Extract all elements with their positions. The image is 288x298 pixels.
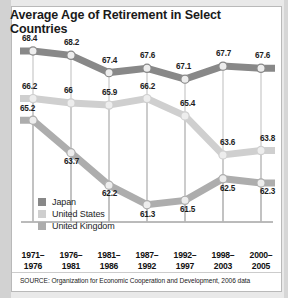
source-note: SOURCE: Organization for Economic Cooper… <box>20 277 250 284</box>
data-value-label: 62.5 <box>220 184 235 193</box>
data-point-marker <box>67 51 75 59</box>
legend-swatch-icon <box>38 198 46 206</box>
chart-figure: Average Age of Retirement in Select Coun… <box>0 0 288 298</box>
data-point-marker <box>105 101 113 109</box>
data-point-marker <box>29 116 37 124</box>
left-decorative-band <box>0 0 11 298</box>
x-axis-tick-4: 1992–1997 <box>165 250 205 271</box>
legend-item-label: United States <box>52 209 105 219</box>
x-tick-line2: 1981 <box>51 261 91 272</box>
data-point-marker <box>219 151 227 159</box>
data-value-label: 62.3 <box>260 187 275 196</box>
data-value-label: 61.3 <box>140 210 155 219</box>
data-point-marker <box>105 181 113 189</box>
data-point-marker <box>143 201 151 209</box>
x-axis-tick-0: 1971–1976 <box>13 250 53 271</box>
data-value-label: 63.8 <box>260 134 275 143</box>
data-value-label: 65.9 <box>102 88 117 97</box>
data-value-label: 67.1 <box>176 62 191 71</box>
data-point-marker <box>257 146 265 154</box>
data-point-marker <box>257 179 265 187</box>
chart-legend: JapanUnited StatesUnited Kingdom <box>38 196 115 232</box>
x-tick-line1: 1976– <box>51 250 91 261</box>
data-value-label: 63.7 <box>64 157 79 166</box>
x-tick-line2: 1976 <box>13 261 53 272</box>
data-point-marker <box>181 75 189 83</box>
legend-item-label: United Kingdom <box>52 221 115 231</box>
legend-item-japan[interactable]: Japan <box>38 196 115 207</box>
data-point-marker <box>257 64 265 72</box>
source-divider <box>12 272 281 273</box>
data-value-label: 68.4 <box>22 34 37 43</box>
data-value-label: 63.6 <box>220 138 235 147</box>
data-point-marker <box>219 175 227 183</box>
data-value-label: 67.6 <box>140 51 155 60</box>
data-value-label: 65.2 <box>20 104 35 113</box>
x-tick-line2: 1992 <box>127 261 167 272</box>
data-value-label: 65.4 <box>180 99 195 108</box>
data-point-marker <box>67 99 75 107</box>
legend-item-united-kingdom[interactable]: United Kingdom <box>38 220 115 231</box>
legend-swatch-icon <box>38 222 46 230</box>
x-tick-line2: 1997 <box>165 261 205 272</box>
x-tick-line1: 2000– <box>241 250 281 261</box>
x-tick-line1: 1981– <box>89 250 129 261</box>
series-line <box>20 120 275 204</box>
data-point-marker <box>181 196 189 204</box>
x-tick-line2: 2003 <box>203 261 243 272</box>
data-value-label: 66.2 <box>140 82 155 91</box>
x-axis-tick-5: 1998–2003 <box>203 250 243 271</box>
data-value-label: 67.6 <box>255 51 270 60</box>
data-value-label: 67.4 <box>102 56 117 65</box>
data-point-marker <box>181 112 189 120</box>
data-point-marker <box>143 95 151 103</box>
x-tick-line2: 2005 <box>241 261 281 272</box>
data-value-label: 67.7 <box>216 49 231 58</box>
data-point-marker <box>105 69 113 77</box>
legend-item-united-states[interactable]: United States <box>38 208 115 219</box>
data-point-marker <box>143 64 151 72</box>
legend-item-label: Japan <box>52 197 76 207</box>
legend-swatch-icon <box>38 210 46 218</box>
x-axis-tick-1: 1976–1981 <box>51 250 91 271</box>
data-point-marker <box>67 149 75 157</box>
x-tick-line1: 1998– <box>203 250 243 261</box>
x-tick-line1: 1987– <box>127 250 167 261</box>
x-axis-tick-6: 2000–2005 <box>241 250 281 271</box>
data-value-label: 66 <box>64 86 73 95</box>
x-tick-line1: 1971– <box>13 250 53 261</box>
right-decorative-band <box>284 0 288 298</box>
data-value-label: 61.5 <box>180 205 195 214</box>
data-point-marker <box>219 62 227 70</box>
x-axis-tick-2: 1981–1986 <box>89 250 129 271</box>
series-line <box>20 99 275 155</box>
x-axis-tick-3: 1987–1992 <box>127 250 167 271</box>
x-tick-line1: 1992– <box>165 250 205 261</box>
data-point-marker <box>29 95 37 103</box>
x-tick-line2: 1986 <box>89 261 129 272</box>
data-value-label: 68.2 <box>64 38 79 47</box>
data-value-label: 66.2 <box>22 82 37 91</box>
data-point-marker <box>29 47 37 55</box>
